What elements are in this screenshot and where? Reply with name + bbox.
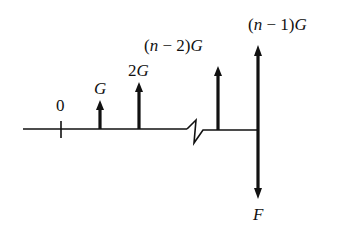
flow-label-n-minus-1-g: (n − 1)G — [248, 15, 307, 34]
flow-arrow-n-minus-2-g — [214, 66, 222, 130]
flow-label-n-minus-2-g: (n − 2)G — [144, 36, 203, 55]
flow-label-2g: 2G — [128, 61, 149, 80]
flow-arrow-2g — [135, 82, 143, 129]
flow-arrow-n-minus-1-g — [254, 45, 262, 130]
axis-break-icon — [187, 120, 258, 143]
cash-flow-diagram: 0 G 2G (n − 2)G (n − 1)G F — [0, 0, 352, 238]
flow-arrow-g — [96, 100, 104, 129]
flow-arrow-f — [254, 130, 262, 199]
flow-label-g: G — [94, 79, 106, 98]
origin-label: 0 — [56, 96, 65, 115]
flow-label-f: F — [252, 205, 264, 224]
